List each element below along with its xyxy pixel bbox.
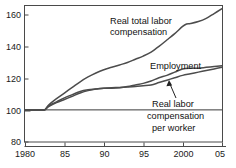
line-chart: 160 140 120 100 80 1980 85 90 95 2000 05 [0,0,236,168]
series-label-rtlc-line1: Real total labor [110,16,172,26]
y-tick-label-160: 160 [6,10,21,20]
x-tick-label-90: 90 [99,149,109,159]
annotation-real-total-labor-compensation: Real total labor compensation [110,16,172,37]
annotation-employment: Employment [150,61,202,71]
y-tick-label-80: 80 [11,137,21,147]
series-label-rtlc-line2: compensation [110,27,167,37]
y-tick-label-140: 140 [6,42,21,52]
x-tick-label-05: 05 [215,149,225,159]
x-tick-label-85: 85 [60,149,70,159]
series-label-employment: Employment [150,61,202,71]
chart-container: 160 140 120 100 80 1980 85 90 95 2000 05 [0,0,236,168]
x-tick-label-2000: 2000 [173,149,193,159]
series-label-rlcpw-line2: compensation [147,111,204,121]
y-tick-label-120: 120 [6,74,21,84]
series-label-rlcpw-line1: Real labor [152,99,194,109]
y-tick-label-100: 100 [6,106,21,116]
x-tick-label-95: 95 [139,149,149,159]
x-tick-label-1980: 1980 [15,149,35,159]
series-label-rlcpw-line3: per worker [152,123,195,133]
